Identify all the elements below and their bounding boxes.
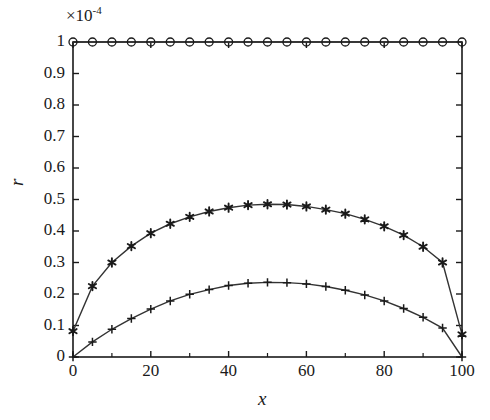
marker-plus-series-16 — [380, 297, 388, 305]
marker-plus-series-6 — [186, 290, 194, 298]
marker-plus-series-20 — [458, 353, 466, 361]
marker-star-series-15 — [361, 215, 368, 223]
data-series-group — [69, 38, 466, 361]
marker-plus-series-12 — [302, 280, 310, 288]
marker-star-series-4 — [147, 229, 154, 237]
marker-plus-series-17 — [399, 304, 407, 312]
marker-plus-series-19 — [438, 324, 446, 332]
marker-plus-series-14 — [341, 286, 349, 294]
marker-star-series-5 — [167, 220, 174, 228]
marker-plus-series-9 — [244, 279, 252, 287]
plot-area — [0, 0, 490, 420]
series-star-series — [69, 200, 465, 338]
marker-plus-series-11 — [283, 278, 291, 286]
marker-plus-series-10 — [263, 278, 271, 286]
marker-star-series-20 — [458, 330, 465, 338]
marker-plus-series-8 — [224, 281, 232, 289]
marker-plus-series-5 — [166, 297, 174, 305]
marker-star-series-0 — [69, 327, 76, 335]
marker-star-series-16 — [381, 222, 388, 230]
marker-plus-series-13 — [322, 282, 330, 290]
figure-container: ×10-4 r x 00.10.20.30.40.50.60.70.80.91 … — [0, 0, 490, 420]
marker-plus-series-15 — [361, 291, 369, 299]
marker-plus-series-7 — [205, 285, 213, 293]
series-circle-series — [69, 38, 466, 46]
series-plus-series — [69, 278, 466, 361]
marker-star-series-17 — [400, 231, 407, 239]
marker-plus-series-18 — [419, 313, 427, 321]
marker-plus-series-3 — [127, 314, 135, 322]
marker-plus-series-2 — [108, 325, 116, 333]
marker-plus-series-4 — [147, 305, 155, 313]
